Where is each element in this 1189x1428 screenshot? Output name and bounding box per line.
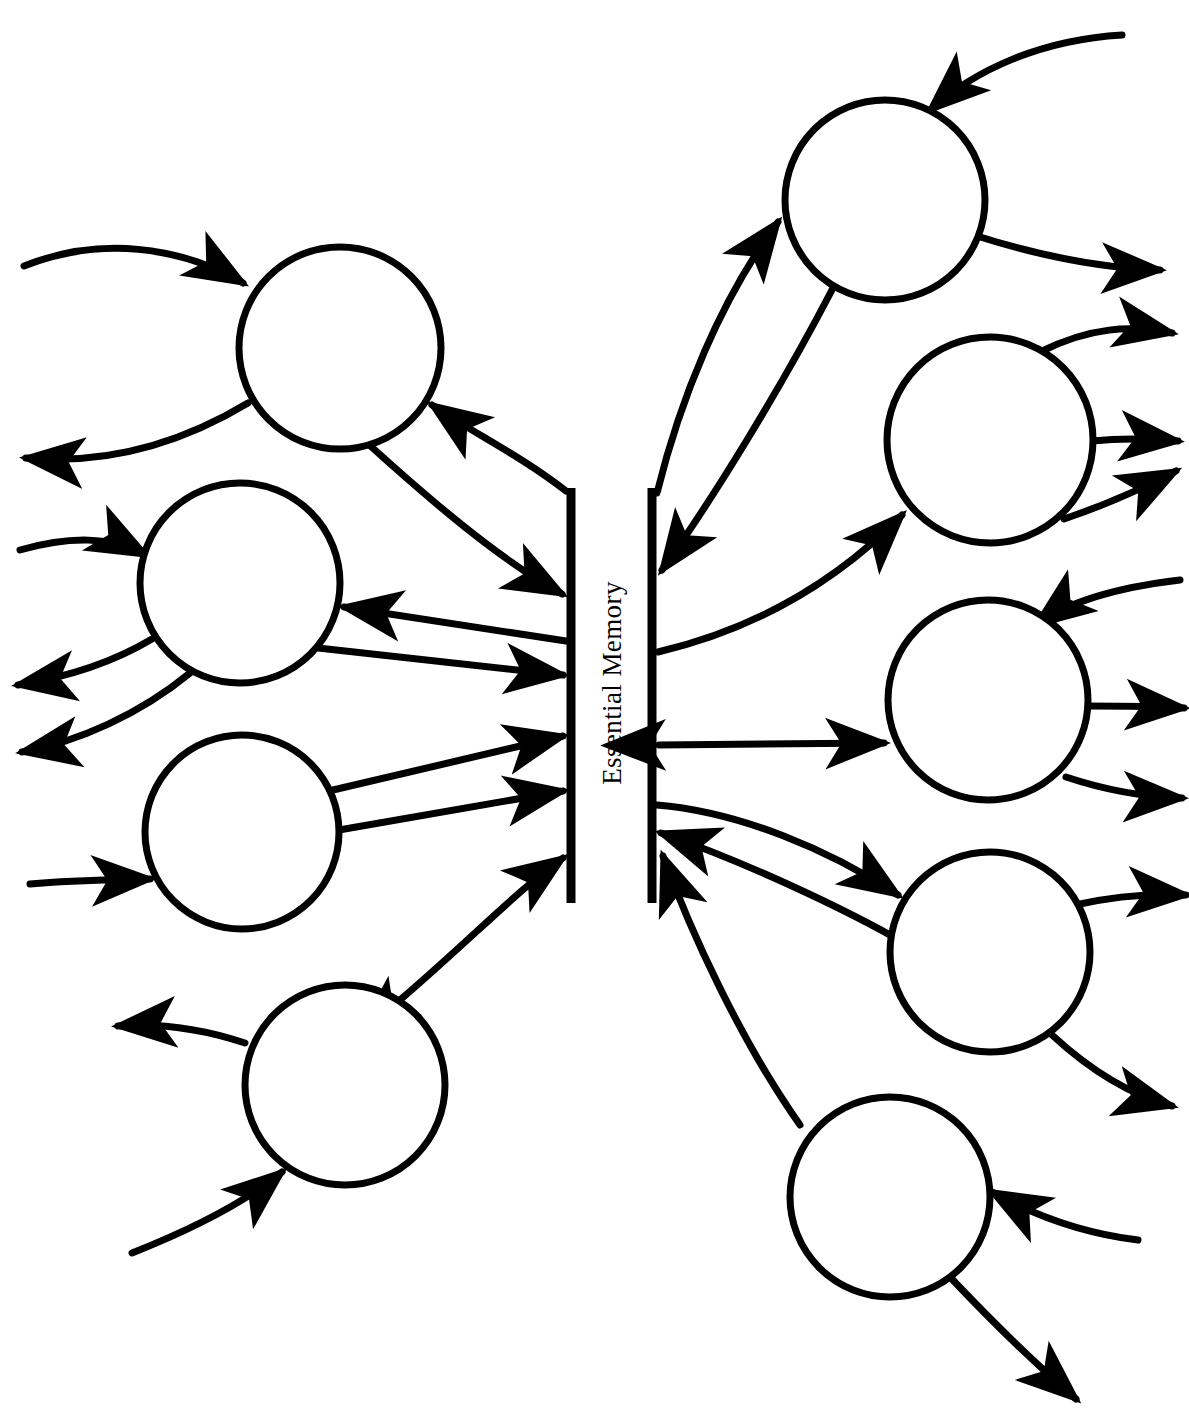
edge-external-out-R3-b <box>1066 777 1182 798</box>
node-circle-R4[interactable] <box>890 852 1090 1052</box>
edge-barrier-R3-bidirectional <box>659 743 884 745</box>
edge-external-in-R3 <box>1036 580 1180 625</box>
edge-external-out-R2-a <box>1040 329 1172 352</box>
barrier-label: Essential Memory <box>597 581 628 785</box>
edge-external-in-L4 <box>132 1172 282 1253</box>
node-circle-L2[interactable] <box>140 483 340 683</box>
edge-L3-to-barrier-a <box>333 736 563 790</box>
edge-external-out-R1 <box>977 236 1160 270</box>
edge-external-out-R4-a <box>1075 894 1186 905</box>
node-circle-R1[interactable] <box>785 100 985 300</box>
node-circle-L1[interactable] <box>239 247 441 449</box>
node-circle-R2[interactable] <box>887 337 1093 543</box>
node-circle-R5[interactable] <box>790 1097 990 1297</box>
diagram-canvas: Essential Memory <box>0 0 1189 1428</box>
edge-barrier-to-L1 <box>432 405 566 491</box>
edge-barrier-L4-bidirectional <box>400 858 563 1000</box>
edge-external-out-L2-b <box>22 673 190 752</box>
edge-external-out-L4 <box>118 1025 245 1043</box>
node-circle-L3[interactable] <box>145 735 339 929</box>
diagram-svg <box>0 0 1189 1428</box>
edge-R5-to-barrier <box>663 856 800 1125</box>
edge-external-out-L2-a <box>18 639 152 685</box>
edge-external-in-L3 <box>30 879 150 884</box>
edge-external-out-R5 <box>950 1277 1076 1399</box>
node-circle-R3[interactable] <box>888 600 1088 800</box>
edge-barrier-to-R2 <box>658 515 902 652</box>
edge-barrier-to-R1 <box>657 222 778 493</box>
edge-external-out-R4-b <box>1052 1035 1172 1106</box>
node-circle-L4[interactable] <box>245 985 445 1185</box>
edge-R1-to-barrier <box>662 288 833 570</box>
edge-external-out-R3-a <box>1088 706 1184 708</box>
edge-external-in-L1 <box>24 248 243 283</box>
edge-L2-to-barrier <box>300 646 563 675</box>
edge-barrier-to-L2 <box>344 607 566 641</box>
edge-external-out-R2-b <box>1092 439 1178 441</box>
edge-L3-to-barrier-b <box>339 791 563 830</box>
edge-external-out-L1 <box>26 403 248 459</box>
edge-external-in-R1 <box>930 35 1122 110</box>
edge-R4-to-barrier <box>661 833 908 945</box>
edge-external-in-L2 <box>20 540 146 555</box>
edge-external-in-R5 <box>992 1192 1138 1240</box>
